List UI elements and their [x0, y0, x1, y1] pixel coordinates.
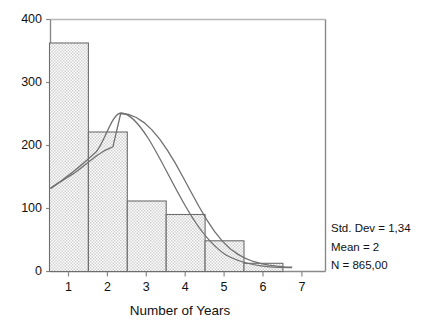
y-tick-label-400: 400	[8, 13, 42, 26]
x-tick-label-6: 6	[251, 281, 275, 294]
statistics-annotations: Std. Dev = 1,34 Mean = 2 N = 865,00	[331, 219, 427, 275]
histogram-chart: 400 300 200 100 0 1 2 3 4 5 6 7 Number o…	[0, 0, 428, 330]
x-axis-title: Number of Years	[0, 303, 360, 318]
bar-bin-4	[166, 215, 205, 272]
y-tick-label-300: 300	[8, 76, 42, 89]
y-tick-label-0: 0	[8, 265, 42, 278]
bar-bin-5	[205, 241, 244, 272]
n-label: N = 865,00	[331, 256, 427, 275]
y-tick-label-100: 100	[8, 202, 42, 215]
x-tick-label-1: 1	[57, 281, 81, 294]
x-axis-ticks	[69, 272, 302, 277]
x-tick-label-7: 7	[290, 281, 314, 294]
x-tick-label-2: 2	[95, 281, 119, 294]
std-dev-label: Std. Dev = 1,34	[331, 219, 427, 238]
x-tick-label-5: 5	[212, 281, 236, 294]
mean-label: Mean = 2	[331, 238, 427, 257]
x-tick-label-4: 4	[173, 281, 197, 294]
bar-bin-1	[50, 43, 89, 272]
bar-bin-3	[127, 201, 166, 272]
histogram-bars	[50, 43, 283, 272]
x-tick-label-3: 3	[134, 281, 158, 294]
y-tick-label-200: 200	[8, 139, 42, 152]
